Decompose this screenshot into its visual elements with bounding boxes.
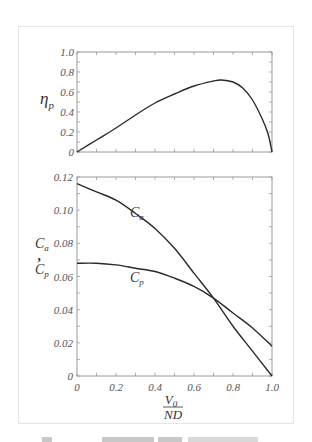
bottom-plot-x-tick-labels: 00.20.40.60.81.0 <box>74 381 279 393</box>
bottom-plot-axes-box <box>77 177 272 376</box>
bottom-plot-y-tick-labels: 00.020.040.060.080.100.12 <box>54 171 74 382</box>
cp-curve-label: Cp <box>130 270 144 287</box>
top-plot-ticks <box>77 52 272 152</box>
y-tick-label: 0 <box>69 146 75 158</box>
ca-curve-label: Ca <box>130 205 144 222</box>
x-tick-label: 0.8 <box>226 381 240 393</box>
x-axis-title-denominator: ND <box>163 407 183 422</box>
figure-canvas: 00.20.40.60.81.0 ηp 00.020.040.060.080.1… <box>0 0 312 442</box>
y-tick-label: 1.0 <box>60 46 74 58</box>
y-tick-label: 0.04 <box>54 304 74 316</box>
efficiency-plot: 00.20.40.60.81.0 ηp <box>40 46 272 158</box>
y-tick-label: 0.02 <box>54 337 74 349</box>
ca-curve <box>77 184 272 376</box>
y-tick-label: 0.6 <box>60 86 74 98</box>
y-tick-label: 0.8 <box>60 66 74 78</box>
x-tick-label: 0.6 <box>187 381 201 393</box>
figure-caption-clipped <box>42 437 270 442</box>
top-y-axis-title: ηp <box>40 89 54 111</box>
x-tick-label: 0.2 <box>109 381 123 393</box>
coefficient-plot: 00.020.040.060.080.100.12 00.20.40.60.81… <box>35 171 279 422</box>
y-tick-label: 0.4 <box>60 106 74 118</box>
bottom-plot-ticks <box>77 177 272 376</box>
y-tick-label: 0.12 <box>54 171 74 183</box>
y-tick-label: 0.08 <box>54 237 74 249</box>
x-tick-label: 0 <box>74 381 80 393</box>
y-tick-label: 0.06 <box>54 271 74 283</box>
bottom-y-axis-title-separator: , <box>37 248 42 263</box>
x-tick-label: 0.4 <box>148 381 162 393</box>
y-tick-label: 0.2 <box>60 126 74 138</box>
bottom-y-axis-title-cp: Cp <box>35 262 49 279</box>
cp-curve <box>77 263 272 346</box>
top-plot-y-tick-labels: 00.20.40.60.81.0 <box>60 46 74 158</box>
y-tick-label: 0 <box>68 370 74 382</box>
y-tick-label: 0.10 <box>54 204 74 216</box>
top-plot-axes-box <box>77 52 272 152</box>
x-tick-label: 1.0 <box>265 381 279 393</box>
eta-curve <box>77 80 272 152</box>
